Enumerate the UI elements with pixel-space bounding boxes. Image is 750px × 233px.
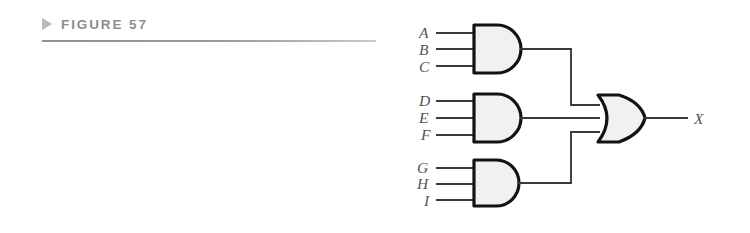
figure-page: FIGURE 57 xyxy=(0,0,750,233)
wire-and-top-to-or xyxy=(521,49,599,105)
label-input-d: D xyxy=(418,92,430,109)
and-gate-middle xyxy=(437,94,521,142)
label-input-i: I xyxy=(423,192,430,209)
label-input-c: C xyxy=(419,58,430,75)
and-gate-top xyxy=(437,25,521,73)
wire-and-bottom-to-or xyxy=(519,132,599,183)
label-input-a: A xyxy=(418,24,429,41)
label-output-x: X xyxy=(693,110,704,127)
label-input-h: H xyxy=(416,175,429,192)
and-gate-bottom xyxy=(437,160,519,206)
and-gate-middle-body xyxy=(474,94,521,142)
label-input-g: G xyxy=(417,159,428,176)
or-gate-body xyxy=(598,95,645,142)
label-input-b: B xyxy=(419,41,429,58)
label-input-f: F xyxy=(420,126,431,143)
logic-circuit-diagram: A B C D E F G H I X xyxy=(0,0,750,233)
and-gate-top-body xyxy=(474,25,521,73)
or-gate-output xyxy=(598,95,687,142)
label-input-e: E xyxy=(418,109,429,126)
and-gate-bottom-body xyxy=(474,160,519,206)
